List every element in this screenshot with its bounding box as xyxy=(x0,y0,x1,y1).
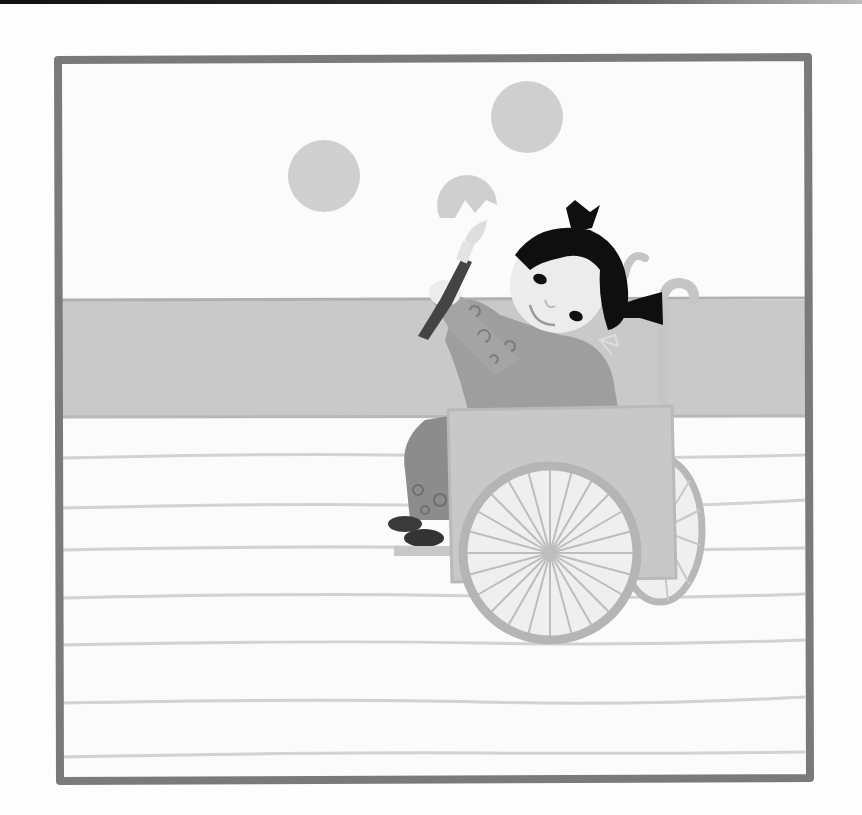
wheel-spokes xyxy=(467,470,633,636)
shoe xyxy=(404,529,444,547)
illustration xyxy=(0,0,862,815)
